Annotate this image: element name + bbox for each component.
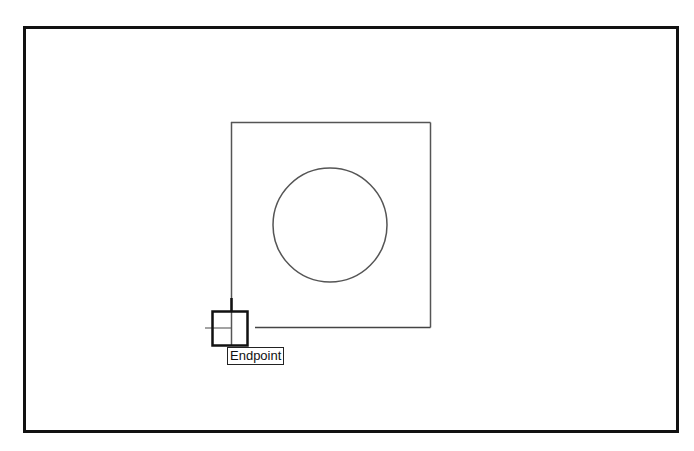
square-shape[interactable]: [231, 122, 431, 346]
osnap-tooltip: Endpoint: [227, 347, 284, 365]
circle-shape[interactable]: [273, 168, 387, 282]
drawing-canvas[interactable]: [0, 0, 694, 451]
drawing-viewport[interactable]: Endpoint: [0, 0, 694, 451]
